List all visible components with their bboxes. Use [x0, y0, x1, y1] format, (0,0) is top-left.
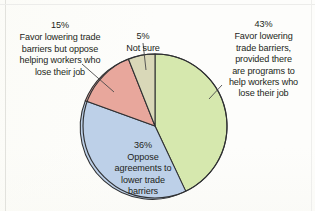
slice-label-favor-oppose-help: 15%Favor lowering trade barriers but opp… [4, 9, 116, 78]
slice-text-not-sure: Not sure [126, 43, 160, 53]
slice-label-oppose-agreements: 36%Oppose agreements to lower trade barr… [104, 128, 182, 198]
slice-label-not-sure: 5%Not sure [107, 20, 179, 55]
slice-percent-not-sure: 5% [107, 31, 179, 42]
slice-percent-favor-with-programs: 43% [216, 19, 311, 30]
slice-percent-oppose-agreements: 36% [104, 140, 182, 152]
slice-text-favor-with-programs: Favor lowering trade barriers, provided … [229, 31, 298, 98]
slice-label-favor-with-programs: 43%Favor lowering trade barriers, provid… [216, 8, 311, 100]
pie-chart-figure: 15%Favor lowering trade barriers but opp… [0, 0, 315, 211]
slice-text-favor-oppose-help: Favor lowering trade barriers but oppose… [20, 32, 101, 76]
slice-percent-favor-oppose-help: 15% [4, 20, 116, 31]
slice-text-oppose-agreements: Oppose agreements to lower trade barrier… [115, 152, 172, 197]
